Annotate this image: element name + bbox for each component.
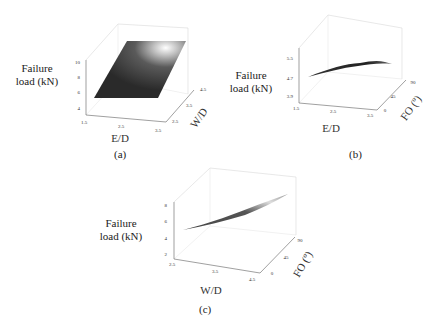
tick-label: 45 — [391, 94, 397, 99]
surface-b — [308, 61, 392, 77]
caption-a: (a) — [114, 148, 126, 160]
surface-c — [183, 194, 288, 230]
panel-c: Failure load (kN) 8 6 4 2 2.5 3.5 4.5 0 … — [100, 160, 320, 324]
tick-label: 8 — [78, 75, 81, 80]
surface-plot-c: 8 6 4 2 2.5 3.5 4.5 0 45 90 W/D FO (º) — [100, 160, 320, 324]
tick-label: 1.5 — [293, 106, 300, 111]
tick-label: 0 — [271, 271, 274, 276]
y-axis-label-c: FO (º) — [290, 249, 315, 280]
panel-b: Failure load (kN) 5.5 4.7 3.9 1.5 2.5 3.… — [230, 0, 438, 160]
tick-label: 3.9 — [287, 94, 294, 99]
tick-label: 45 — [284, 255, 290, 260]
tick-label: 2.5 — [330, 109, 337, 114]
panel-a: Failure load (kN) 10 8 6 4 1.5 2.5 3.5 — [0, 0, 220, 160]
surface-plot-b: 5.5 4.7 3.9 1.5 2.5 3.5 0 45 90 E/D FO (… — [230, 0, 438, 160]
tick-label: 4.5 — [249, 277, 256, 282]
tick-label: 90 — [411, 80, 417, 85]
tick-label: 4 — [165, 236, 168, 241]
tick-label: 2 — [165, 252, 168, 257]
tick-label: 5.5 — [287, 56, 294, 61]
tick-label: 3.5 — [186, 103, 193, 108]
tick-label: 6 — [78, 90, 81, 95]
tick-label: 90 — [298, 238, 304, 243]
surface-a — [94, 41, 186, 98]
tick-label: 1.5 — [81, 120, 88, 125]
x-axis-label-b: E/D — [322, 122, 340, 134]
x-axis-label-c: W/D — [200, 284, 221, 296]
tick-label: 4.5 — [200, 87, 207, 92]
tick-label: 4 — [78, 106, 81, 111]
y-axis-label-b: FO (º) — [398, 93, 425, 123]
tick-label: 8 — [165, 203, 168, 208]
tick-label: 2.5 — [118, 124, 125, 129]
tick-label: 3.5 — [367, 113, 374, 118]
tick-label: 6 — [165, 219, 168, 224]
x-axis-label-a: E/D — [111, 132, 129, 144]
tick-label: 3.5 — [155, 128, 162, 133]
tick-label: 0 — [384, 108, 387, 113]
tick-label: 2.5 — [169, 262, 176, 267]
tick-label: 2.5 — [172, 119, 179, 124]
caption-b: (b) — [349, 148, 362, 160]
tick-label: 4.7 — [287, 76, 294, 81]
tick-label: 10 — [75, 60, 81, 65]
y-axis-label-a: W/D — [188, 105, 210, 129]
surface-plot-a: 10 8 6 4 1.5 2.5 3.5 2.5 3.5 4.5 E/D W/D — [0, 0, 220, 160]
tick-label: 3.5 — [212, 269, 219, 274]
caption-c: (c) — [199, 303, 211, 315]
